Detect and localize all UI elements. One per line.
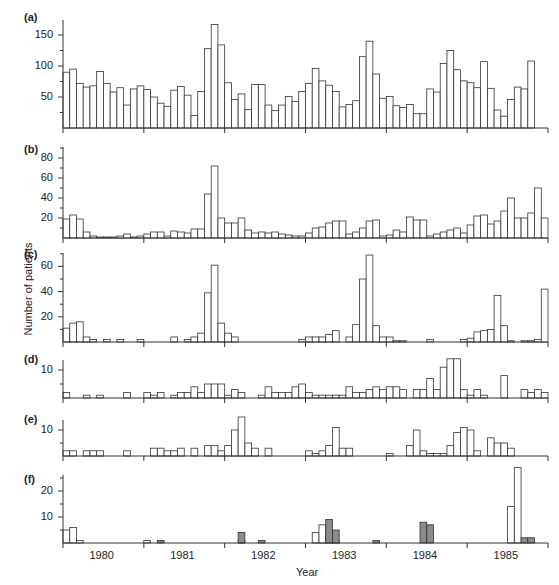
bar <box>319 451 326 456</box>
bar <box>292 101 299 128</box>
panel-label: (a) <box>24 11 37 23</box>
bar <box>359 57 366 128</box>
bar <box>178 448 185 456</box>
bar <box>447 51 454 129</box>
bar <box>265 233 272 238</box>
bar <box>90 451 97 456</box>
bar <box>501 376 508 398</box>
bar <box>447 359 454 398</box>
bar <box>70 215 77 238</box>
bar <box>454 70 461 128</box>
bar <box>218 45 225 128</box>
bar <box>97 451 104 456</box>
bar <box>460 427 467 456</box>
bar <box>211 24 218 128</box>
bar <box>225 223 232 238</box>
bar <box>535 390 542 398</box>
x-tick-label-year: 1985 <box>494 549 518 561</box>
bar <box>178 232 185 238</box>
bar <box>306 337 313 342</box>
bar <box>501 116 508 128</box>
bar <box>386 387 393 398</box>
bar <box>171 451 178 456</box>
x-tick-label-year: 1981 <box>170 549 194 561</box>
bar <box>124 105 131 128</box>
bar <box>178 86 185 128</box>
bar <box>157 392 164 398</box>
bar <box>501 443 508 456</box>
bar <box>312 337 319 342</box>
bar <box>535 188 542 238</box>
bar <box>70 69 77 128</box>
bar <box>184 233 191 238</box>
bar <box>501 326 508 342</box>
bar <box>413 390 420 398</box>
bar <box>198 91 205 128</box>
bar <box>245 230 252 238</box>
shaded-bar <box>238 533 245 543</box>
bar <box>346 104 353 128</box>
bar <box>285 392 292 398</box>
bar <box>157 448 164 456</box>
bar <box>420 390 427 398</box>
bar <box>447 230 454 238</box>
x-tick-label-year: 1984 <box>413 549 437 561</box>
bar <box>380 390 387 398</box>
y-tick-label: 20 <box>23 310 53 322</box>
bar <box>245 443 252 456</box>
bar <box>299 91 306 128</box>
bar <box>171 231 178 238</box>
bar <box>63 530 70 543</box>
x-tick-label-year: 1982 <box>251 549 275 561</box>
bar <box>124 451 131 456</box>
bar <box>218 451 225 456</box>
bar <box>332 427 339 456</box>
bar <box>306 233 313 238</box>
bar <box>272 111 279 128</box>
bar <box>366 390 373 398</box>
bar <box>151 97 158 128</box>
bar <box>373 387 380 398</box>
bar <box>433 234 440 238</box>
bar <box>83 337 90 342</box>
bar <box>63 72 70 128</box>
bar <box>326 446 333 456</box>
bar <box>326 334 333 342</box>
bar <box>225 83 232 128</box>
y-tick-label: 100 <box>23 59 53 71</box>
bar <box>83 87 90 128</box>
bar <box>144 234 151 238</box>
bar <box>353 232 360 238</box>
bar <box>137 86 144 128</box>
bar <box>238 417 245 456</box>
bar <box>265 448 272 456</box>
bar <box>541 392 548 398</box>
bar <box>494 110 501 128</box>
bar <box>144 392 151 398</box>
bar <box>474 451 481 456</box>
bar <box>380 98 387 128</box>
bar <box>157 232 164 238</box>
bar <box>400 232 407 238</box>
bar <box>272 392 279 398</box>
histogram-plots <box>0 0 559 585</box>
bar <box>427 89 434 128</box>
bar <box>440 367 447 398</box>
bar <box>130 89 137 128</box>
shaded-bar <box>521 538 528 543</box>
bar <box>184 392 191 398</box>
figure: Number of patients Year 50100150(a)20406… <box>0 0 559 585</box>
bar <box>312 533 319 543</box>
bar <box>474 332 481 342</box>
bar <box>521 89 528 128</box>
bar <box>521 218 528 238</box>
bar <box>157 103 164 128</box>
bar <box>70 527 77 543</box>
bar <box>339 448 346 456</box>
bar <box>178 392 185 398</box>
bar <box>211 384 218 398</box>
bar <box>494 221 501 238</box>
bar <box>427 378 434 398</box>
bar <box>306 392 313 398</box>
bar <box>204 384 211 398</box>
